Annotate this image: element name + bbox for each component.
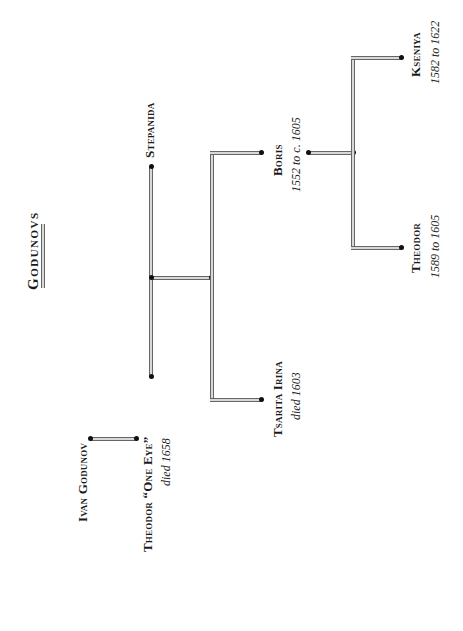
title-underline (41, 224, 45, 288)
person-tsarita-irina: Tsarita Irina (270, 361, 286, 437)
node-dot (259, 397, 264, 402)
person-ivan-godunov: Ivan Godunov (75, 443, 91, 522)
kseniya-dates: 1582 to 1622 (428, 21, 443, 84)
person-theodor-one-eye: Theodor “One Eye” (140, 437, 156, 552)
node-dot (149, 164, 154, 169)
node-dot (88, 436, 93, 441)
connector-ivan-theodor (90, 437, 137, 441)
node-dot (149, 275, 154, 280)
branch-boris (210, 151, 262, 155)
node-dot (399, 245, 404, 250)
children-bracket (210, 151, 214, 402)
chart-title: Godunovs (25, 211, 42, 290)
branch-theodor-son (351, 246, 402, 250)
theodor-son-dates: 1589 to 1605 (428, 215, 443, 278)
theodor-one-eye-dates: died 1658 (159, 438, 174, 486)
node-dot (306, 150, 311, 155)
branch-kseniya (351, 56, 402, 60)
children-bracket-boris (351, 56, 355, 250)
person-theodor-son: Theodor (408, 223, 424, 273)
descent-line-boris (308, 151, 354, 155)
node-dot (149, 374, 154, 379)
marriage-line-theodor-stepanida (149, 167, 153, 377)
person-stepanida: Stepanida (142, 103, 158, 158)
descent-line (151, 276, 213, 280)
boris-dates: 1552 to c. 1605 (289, 117, 304, 192)
node-dot (259, 150, 264, 155)
branch-irina (210, 398, 262, 402)
irina-dates: died 1603 (289, 372, 304, 420)
person-boris: Boris (270, 144, 286, 176)
node-dot (134, 436, 139, 441)
node-dot (399, 55, 404, 60)
person-kseniya: Kseniya (408, 32, 424, 77)
